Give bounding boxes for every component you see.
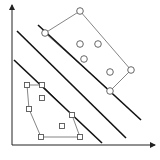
class-square-points bbox=[25, 83, 83, 140]
square-hull bbox=[27, 85, 80, 137]
square-point bbox=[25, 83, 30, 88]
circle-point bbox=[128, 67, 135, 74]
square-point bbox=[40, 96, 45, 101]
circle-point bbox=[77, 8, 84, 15]
circle-hull bbox=[45, 11, 131, 91]
circle-point bbox=[95, 41, 102, 48]
square-point bbox=[60, 124, 65, 129]
circle-point bbox=[42, 30, 49, 37]
svm-diagram bbox=[0, 0, 160, 160]
square-point bbox=[70, 113, 75, 118]
axes bbox=[12, 5, 155, 145]
hyperplane-line bbox=[17, 31, 126, 138]
square-point bbox=[27, 107, 32, 112]
square-point bbox=[39, 135, 44, 140]
figure-caption bbox=[0, 150, 160, 160]
upper-margin-line bbox=[38, 25, 141, 120]
square-point bbox=[78, 135, 83, 140]
circle-point bbox=[107, 88, 114, 95]
circle-point bbox=[77, 41, 84, 48]
circle-point bbox=[107, 69, 114, 76]
square-point bbox=[40, 83, 45, 88]
circle-point bbox=[81, 56, 88, 63]
